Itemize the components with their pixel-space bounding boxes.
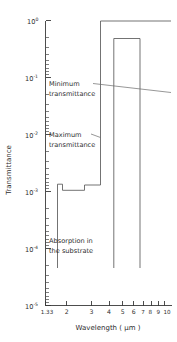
y-tick-label: 100 [27,17,38,26]
x-tick-label: 9 [156,309,160,315]
x-tick-label: 7 [141,309,145,315]
y-tick-label: 10-4 [25,245,38,254]
annotation-line-1: Absorption in [49,237,93,245]
y-tick-label: 10-2 [25,131,38,140]
y-tick-label: 10-1 [25,74,38,83]
annotation-line-1: Minimum [49,80,80,88]
minimum-transmittance-annotation: Minimum transmittance [49,80,95,98]
y-tick-labels: 100 10-1 10-2 10-3 10-4 10-5 [25,17,38,311]
x-tick-label: 6 [132,308,136,315]
x-tick-label: 10 [163,309,171,315]
x-tick-label: 8 [149,309,153,315]
transmittance-chart: 100 10-1 10-2 10-3 10-4 10-5 Transmittan… [0,0,177,342]
annotation-line-2: transmittance [49,141,95,149]
x-axis-title: Wavelength ( µm ) [76,324,141,332]
axis-group [46,21,172,306]
y-tick-marks [46,21,51,306]
annotation-line-2: transmittance [49,90,95,98]
x-tick-label: 1.33 [41,309,54,315]
x-tick-marks [46,301,165,306]
chart-canvas: 100 10-1 10-2 10-3 10-4 10-5 Transmittan… [0,0,177,342]
minimum-transmittance-curve [114,39,140,269]
x-tick-label: 4 [107,308,111,315]
annotation-line-2: the substrate [49,247,93,255]
maximum-transmittance-annotation: Maximum transmittance [49,131,95,149]
absorption-in-substrate-annotation: Absorption in the substrate [49,237,93,255]
y-tick-label: 10-3 [25,188,38,197]
x-tick-label: 5 [121,308,125,315]
x-tick-labels: 1.33 2 3 4 5 6 7 8 9 10 [41,308,171,315]
minimum-transmittance-leader [93,84,171,93]
y-tick-label: 10-5 [25,302,38,311]
maximum-transmittance-leader [91,134,101,138]
x-tick-label: 3 [89,308,93,315]
x-tick-label: 2 [65,308,69,315]
y-axis-title: Transmittance [5,145,13,196]
annotation-line-1: Maximum [49,131,82,139]
